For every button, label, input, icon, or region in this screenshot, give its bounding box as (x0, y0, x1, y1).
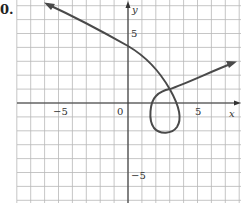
y-axis-arrow-icon (126, 1, 131, 8)
grid-lines (17, 0, 241, 203)
x-axis-label: x (229, 108, 235, 119)
x-tick-label-neg5: −5 (53, 106, 68, 117)
y-tick-label-5: 5 (131, 28, 137, 39)
y-axis-label: y (131, 4, 138, 15)
graph-plot: x y −5 0 5 5 −5 (0, 0, 241, 203)
parametric-curve (48, 5, 233, 133)
x-axis-arrow-icon (234, 101, 241, 106)
curve-start-arrow-icon (44, 3, 55, 11)
y-tick-label-neg5: −5 (131, 170, 146, 181)
x-tick-label-0: 0 (117, 106, 123, 117)
curve-end-arrow-icon (226, 61, 237, 68)
x-tick-label-5: 5 (195, 106, 201, 117)
